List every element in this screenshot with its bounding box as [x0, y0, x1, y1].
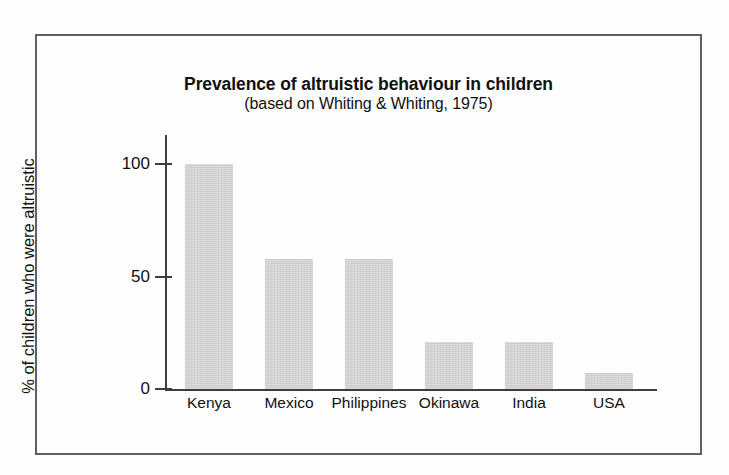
x-axis-label-kenya: Kenya [169, 394, 249, 412]
bar-kenya [185, 164, 233, 389]
bar-philippines [345, 259, 393, 390]
bar-series [37, 36, 700, 453]
x-axis-label-usa: USA [569, 394, 649, 412]
bar-okinawa [425, 342, 473, 389]
x-axis-label-okinawa: Okinawa [409, 394, 489, 412]
y-axis-label: % of children who were altruistic [19, 136, 38, 416]
x-axis-label-india: India [489, 394, 569, 412]
bar-usa [585, 373, 633, 389]
scanned-page-background: Prevalence of altruistic behaviour in ch… [0, 0, 729, 475]
x-axis-label-philippines: Philippines [329, 394, 409, 412]
bar-india [505, 342, 553, 389]
figure-frame: Prevalence of altruistic behaviour in ch… [35, 34, 702, 455]
plot-area: % of children who were altruistic 050100… [37, 36, 700, 453]
bar-mexico [265, 259, 313, 390]
x-axis-label-mexico: Mexico [249, 394, 329, 412]
